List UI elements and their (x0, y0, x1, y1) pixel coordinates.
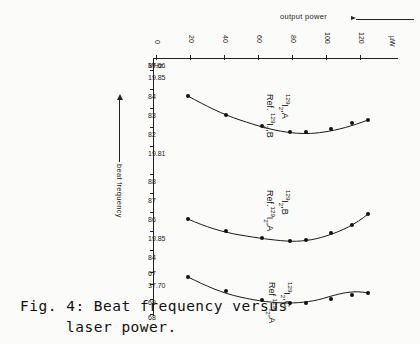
figure-caption-line2: laser power. (66, 317, 320, 338)
figure-caption-line1: Fig. 4: Beat frequency versus (20, 298, 288, 314)
freq-axis-title: beat frequency (115, 164, 124, 218)
figure-root: 0 20 40 60 80 100 120 µW output power (0, 0, 420, 344)
panel-c-curve-svg (140, 14, 412, 320)
figure-caption: Fig. 4: Beat frequency versus laser powe… (20, 296, 320, 338)
freq-axis-arrow-head-icon (117, 94, 123, 100)
plot-area: 0 20 40 60 80 100 120 µW output power (140, 14, 412, 320)
freq-axis-arrow-line (119, 100, 120, 162)
rotated-plot-stage: 0 20 40 60 80 100 120 µW output power (0, 0, 420, 344)
